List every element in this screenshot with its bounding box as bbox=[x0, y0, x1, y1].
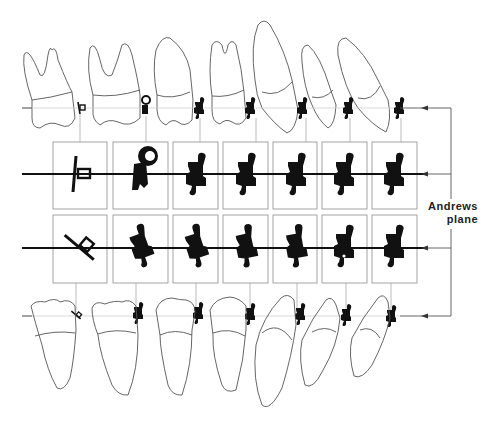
tooth-lower-canine bbox=[255, 295, 296, 406]
upper-connectors bbox=[80, 114, 401, 142]
tooth-lower-central-incisor bbox=[350, 296, 390, 377]
label-line-1: Andrews bbox=[422, 200, 478, 213]
tooth-lower-second-premolar bbox=[156, 298, 195, 395]
lower-teeth bbox=[31, 295, 390, 406]
tooth-lower-first-molar bbox=[92, 301, 138, 395]
tooth-upper-second-molar bbox=[24, 48, 75, 128]
lower-small-brackets bbox=[71, 302, 396, 327]
upper-teeth bbox=[24, 21, 390, 133]
andrews-plane-label: Andrews plane bbox=[422, 200, 478, 226]
lower-large-brackets bbox=[65, 223, 404, 270]
label-line-2: plane bbox=[422, 213, 478, 226]
bracket-boxes bbox=[53, 142, 417, 283]
andrews-plane-diagram: Andrews plane bbox=[0, 0, 496, 429]
tooth-upper-lateral-incisor bbox=[302, 45, 336, 128]
arrow-left-icon bbox=[421, 172, 428, 177]
tooth-upper-first-molar bbox=[89, 44, 140, 125]
tooth-upper-first-premolar bbox=[210, 42, 246, 125]
tooth-upper-canine bbox=[253, 21, 298, 133]
arrow-left-icon bbox=[421, 246, 428, 251]
arrow-left-icon bbox=[421, 314, 428, 319]
arrow-left-icon bbox=[421, 106, 428, 111]
tooth-lower-first-premolar bbox=[210, 297, 246, 391]
upper-small-brackets bbox=[78, 96, 404, 119]
upper-large-brackets bbox=[73, 146, 404, 195]
tooth-upper-second-premolar bbox=[154, 38, 193, 126]
tooth-lower-lateral-incisor bbox=[301, 298, 340, 386]
tooth-lower-second-molar bbox=[31, 300, 76, 389]
